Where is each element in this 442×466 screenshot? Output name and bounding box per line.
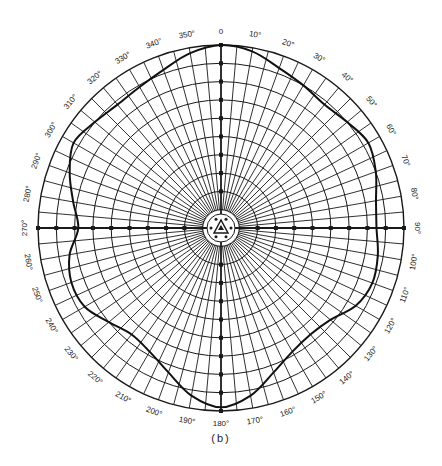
angle-label: 40° (340, 70, 355, 85)
angle-label: 110° (398, 286, 412, 304)
angle-label: 190° (178, 415, 196, 427)
angle-label: 270° (20, 220, 29, 237)
angle-label: 10° (248, 29, 261, 40)
angle-label: 30° (312, 51, 327, 65)
angle-label: 0 (219, 27, 224, 36)
angle-label: 150° (309, 389, 328, 405)
angle-label: 20° (281, 37, 295, 50)
figure-caption: (b) (0, 432, 442, 444)
angle-label: 170° (246, 415, 264, 427)
angle-label: 60° (384, 122, 398, 137)
angle-label: 310° (62, 93, 80, 111)
angle-label: 160° (279, 405, 298, 419)
angle-label: 140° (338, 369, 356, 387)
center-antenna-icon (207, 214, 235, 242)
angle-label: 180° (213, 419, 230, 428)
angle-label: 240° (44, 316, 60, 335)
angle-label: 210° (114, 389, 133, 405)
angle-label: 250° (30, 286, 44, 305)
angle-label: 340° (145, 36, 164, 50)
angle-label: 130° (362, 345, 380, 363)
angle-label: 50° (364, 94, 379, 109)
angle-label: 290° (29, 152, 43, 171)
angle-label: 90° (413, 222, 422, 234)
angle-label: 320° (86, 69, 104, 87)
angle-label: 230° (62, 345, 80, 363)
angle-label: 300° (43, 120, 59, 139)
angle-label: 120° (382, 316, 398, 335)
angle-label: 200° (145, 405, 164, 419)
angle-label: 70° (399, 154, 412, 168)
angle-label: 80° (409, 187, 420, 200)
angle-label: 350° (178, 29, 196, 41)
angle-label: 260° (22, 253, 34, 271)
angle-label: 280° (22, 185, 34, 203)
angle-label: 100° (408, 253, 420, 271)
angle-label: 220° (86, 369, 104, 387)
polar-chart: 010°20°30°40°50°60°70°80°90°100°110°120°… (0, 0, 442, 466)
angle-label: 330° (113, 50, 132, 66)
